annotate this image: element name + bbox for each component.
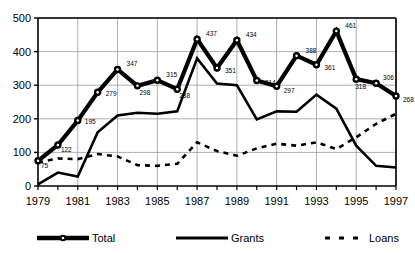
- legend: TotalGrantsLoans: [37, 232, 399, 244]
- legend-marker-total-dot-inner: [62, 237, 65, 240]
- total-value-label: 388: [306, 47, 317, 54]
- total-value-label: 315: [166, 71, 177, 78]
- x-tick-label: 1995: [344, 195, 368, 207]
- total-value-label: 268: [403, 96, 414, 103]
- x-tick-label: 1983: [105, 195, 129, 207]
- y-axis: 0100200300400500: [13, 12, 38, 192]
- total-marker-inner: [375, 82, 378, 85]
- total-value-label: 297: [284, 87, 295, 94]
- x-tick-label: 1981: [66, 195, 90, 207]
- total-marker-inner: [156, 79, 159, 82]
- y-tick-label: 500: [13, 12, 31, 24]
- total-value-label: 437: [206, 30, 217, 37]
- legend-label-loans: Loans: [369, 232, 399, 244]
- total-marker-inner: [216, 67, 219, 70]
- total-marker-inner: [136, 85, 139, 88]
- total-value-label: 298: [139, 89, 150, 96]
- total-marker-inner: [57, 144, 60, 147]
- total-value-label: 288: [179, 92, 190, 99]
- total-marker-inner: [96, 91, 99, 94]
- total-marker-inner: [275, 85, 278, 88]
- series-line-total: [38, 31, 396, 161]
- y-tick-label: 100: [13, 146, 31, 158]
- line-chart: 0100200300400500197919811983198519871989…: [0, 0, 415, 253]
- chart-container: 0100200300400500197919811983198519871989…: [0, 0, 415, 253]
- total-value-label: 195: [85, 118, 96, 125]
- total-marker-inner: [116, 68, 119, 71]
- total-marker-inner: [77, 119, 80, 122]
- total-value-label: 318: [355, 83, 366, 90]
- total-marker-inner: [335, 30, 338, 33]
- total-marker-inner: [256, 79, 259, 82]
- total-marker-inner: [295, 54, 298, 57]
- total-value-label: 347: [127, 60, 138, 67]
- total-value-label: 75: [41, 162, 49, 169]
- x-tick-label: 1991: [264, 195, 288, 207]
- total-marker-inner: [37, 160, 40, 163]
- total-value-label: 434: [246, 31, 257, 38]
- x-tick-label: 1997: [384, 195, 408, 207]
- total-value-label: 351: [225, 67, 236, 74]
- total-marker-inner: [355, 78, 358, 81]
- total-marker-inner: [315, 63, 318, 66]
- total-value-label: 306: [383, 74, 394, 81]
- total-marker-inner: [395, 95, 398, 98]
- y-tick-label: 0: [25, 180, 31, 192]
- total-marker-inner: [236, 39, 239, 42]
- x-tick-label: 1987: [185, 195, 209, 207]
- legend-label-total: Total: [92, 232, 115, 244]
- total-marker-inner: [196, 38, 199, 41]
- total-value-label: 314: [265, 79, 276, 86]
- x-axis: 1979198119831985198719891991199319951997: [26, 186, 408, 207]
- total-marker-inner: [176, 88, 179, 91]
- x-tick-label: 1985: [145, 195, 169, 207]
- total-value-label: 361: [324, 64, 335, 71]
- legend-label-grants: Grants: [231, 232, 265, 244]
- y-tick-label: 400: [13, 46, 31, 58]
- total-value-label: 279: [106, 90, 117, 97]
- y-tick-label: 300: [13, 79, 31, 91]
- total-value-label: 461: [345, 22, 356, 29]
- y-tick-label: 200: [13, 113, 31, 125]
- total-value-label: 122: [61, 146, 72, 153]
- x-tick-label: 1989: [225, 195, 249, 207]
- x-tick-label: 1993: [304, 195, 328, 207]
- x-tick-label: 1979: [26, 195, 50, 207]
